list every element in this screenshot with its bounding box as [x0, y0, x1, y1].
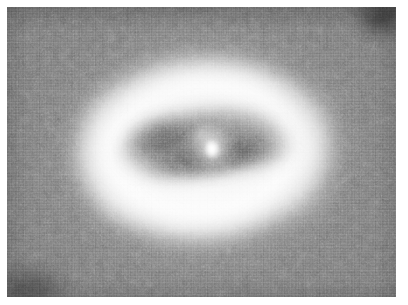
astronomy-image-plate — [7, 7, 396, 297]
pixel-block-grid — [7, 7, 396, 297]
image-page — [0, 0, 408, 305]
